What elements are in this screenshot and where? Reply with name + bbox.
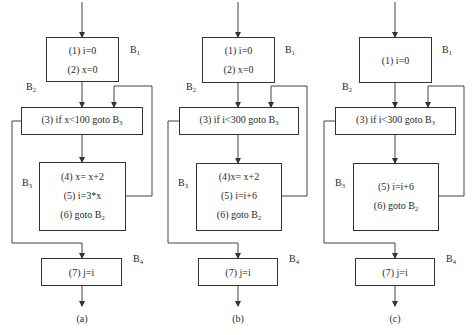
statement: (2) x=0 <box>68 60 98 79</box>
caption-a: (a) <box>76 313 87 324</box>
goto-statement: (6) goto B2 <box>60 205 104 227</box>
statement: (5) i=i+6 <box>378 177 414 196</box>
statement: (7) j=i <box>69 263 94 282</box>
block-b4: (7) j=i <box>41 258 122 286</box>
block-label-b3: B3 <box>22 177 32 189</box>
statement: (2) x=0 <box>224 60 254 79</box>
statement: (1) i=0 <box>382 51 410 70</box>
block-b2: (3) if x<100 goto B3 <box>21 107 143 135</box>
block-b3: (5) i=i+6 (6) goto B2 <box>353 163 439 231</box>
caption-c: (c) <box>389 313 400 324</box>
block-b1: (1) i=0 <box>359 37 432 83</box>
block-label-b3: B3 <box>178 177 188 189</box>
statement: (5) i=i+6 <box>221 186 257 205</box>
block-label-b4: B4 <box>133 253 143 265</box>
statement: (7) j=i <box>382 263 407 282</box>
caption-b: (b) <box>232 313 244 324</box>
goto-statement: (6) goto B2 <box>217 205 261 227</box>
statement: (1) i=0 <box>225 41 253 60</box>
block-b3: (4) x= x+2 (5) i=3*x (6) goto B2 <box>39 162 126 231</box>
condition-statement: (3) if i<300 goto B3 <box>356 110 435 132</box>
block-b2: (3) if i<300 goto B3 <box>335 107 456 135</box>
statement: (4)x= x+2 <box>219 167 259 186</box>
block-b2: (3) if i<300 goto B3 <box>179 107 299 135</box>
condition-statement: (3) if x<100 goto B3 <box>41 110 122 132</box>
statement: (4) x= x+2 <box>61 167 104 186</box>
block-label-b2: B2 <box>342 81 352 93</box>
block-b4: (7) j=i <box>355 258 435 286</box>
block-label-b1: B1 <box>442 44 452 56</box>
goto-statement: (6) goto B2 <box>374 196 418 218</box>
statement: (7) j=i <box>225 263 250 282</box>
block-b4: (7) j=i <box>198 258 278 286</box>
condition-statement: (3) if i<300 goto B3 <box>200 110 279 132</box>
block-label-b3: B3 <box>335 177 345 189</box>
block-label-b1: B1 <box>130 44 140 56</box>
block-label-b2: B2 <box>26 81 36 93</box>
block-label-b2: B2 <box>186 81 196 93</box>
block-b3: (4)x= x+2 (5) i=i+6 (6) goto B2 <box>196 163 282 231</box>
statement: (5) i=3*x <box>64 186 102 205</box>
statement: (1) i=0 <box>69 41 97 60</box>
block-b1: (1) i=0 (2) x=0 <box>202 37 275 83</box>
block-label-b1: B1 <box>285 44 295 56</box>
block-label-b4: B4 <box>446 253 456 265</box>
block-label-b4: B4 <box>289 253 299 265</box>
block-b1: (1) i=0 (2) x=0 <box>46 37 119 82</box>
